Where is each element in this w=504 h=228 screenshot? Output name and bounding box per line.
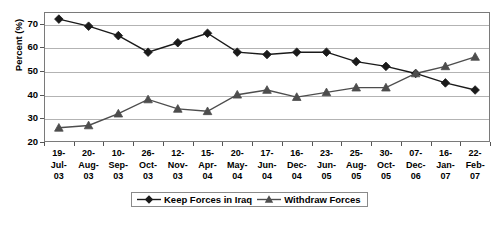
x-axis-tick-mark [44,142,45,146]
chart-legend: Keep Forces in IraqWithdraw Forces [131,192,368,207]
legend-label: Withdraw Forces [284,194,360,205]
data-point [382,62,391,71]
data-point [203,29,212,38]
x-axis-tick-mark [490,142,491,146]
data-point [263,86,272,94]
data-point [322,48,331,57]
data-point [233,48,242,57]
data-point [292,48,301,57]
data-point [84,22,93,31]
data-point [471,53,480,61]
x-axis-tick-mark [371,142,372,146]
legend-label: Keep Forces in Iraq [164,194,252,205]
x-axis-tick-label-line: Feb- [458,160,492,172]
x-axis-tick-mark [252,142,253,146]
data-point [55,15,64,24]
x-axis-tick-mark [460,142,461,146]
data-point [471,86,480,95]
x-axis-tick-label-line: 22- [458,148,492,160]
data-point [144,95,153,103]
x-axis-tick-mark [163,142,164,146]
y-axis-tick-label: 50 [16,66,38,75]
x-axis-tick-mark [193,142,194,146]
x-axis-tick-mark [312,142,313,146]
x-axis-tick-mark [103,142,104,146]
y-axis-tick-label: 20 [16,137,38,146]
triangle-marker-icon [256,194,282,205]
diamond-marker-icon [136,194,162,205]
x-axis-tick-label-line: 07 [458,171,492,183]
x-axis-label-group: 19-Jul-0320-Aug-0310-Sep-0326-Oct-0312-N… [44,148,490,188]
x-axis-tick-label: 22-Feb-07 [458,148,492,183]
x-axis-tick-mark [341,142,342,146]
x-axis-tick-mark [74,142,75,146]
series-keep-forces [55,15,480,95]
x-axis-tick-mark [431,142,432,146]
data-point [441,79,450,88]
series-withdraw-forces [55,53,480,132]
legend-entry: Keep Forces in Iraq [136,194,252,205]
x-axis-tick-mark [222,142,223,146]
data-point [144,48,153,57]
series-overlay [44,12,490,142]
x-axis-tick-mark [133,142,134,146]
y-axis-tick-label: 30 [16,113,38,122]
y-axis-tick-label: 60 [16,42,38,51]
legend-entry: Withdraw Forces [256,194,360,205]
data-point [352,57,361,66]
data-point [263,50,272,59]
y-axis-tick-label: 70 [16,19,38,28]
chart-container: Percent (%) 706050403020 19-Jul-0320-Aug… [0,0,504,228]
data-point [114,31,123,40]
data-point [114,109,123,117]
y-axis-tick-label: 40 [16,90,38,99]
x-axis-tick-mark [401,142,402,146]
x-axis-tick-mark [282,142,283,146]
data-point [174,38,183,47]
